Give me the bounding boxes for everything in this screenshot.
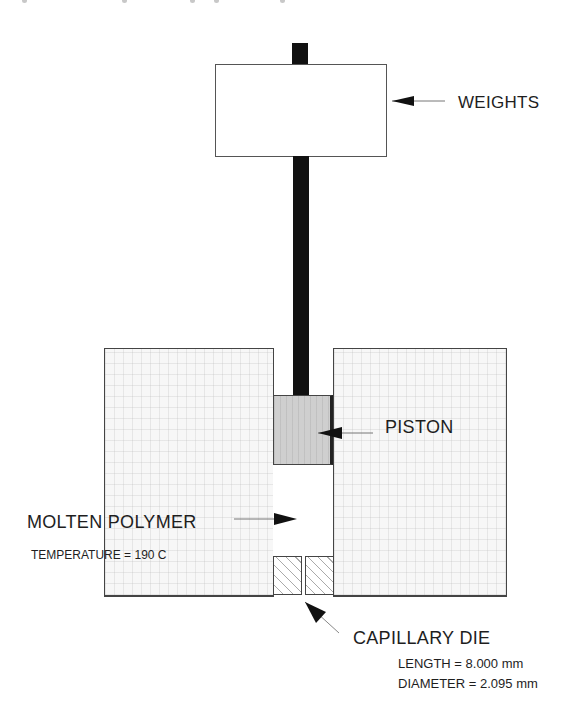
temperature-label: TEMPERATURE = 190 C [31, 548, 166, 562]
weights-arrow-icon [392, 96, 445, 106]
capillary-die-arrow-icon [305, 602, 339, 633]
piston-label: PISTON [385, 417, 453, 438]
molten-polymer-label: MOLTEN POLYMER [27, 512, 197, 533]
capillary-die-label: CAPILLARY DIE [353, 628, 490, 649]
molten-polymer-arrow-icon [234, 513, 297, 525]
weights-label: WEIGHTS [458, 93, 539, 113]
die-diameter-label: DIAMETER = 2.095 mm [398, 676, 538, 691]
die-length-label: LENGTH = 8.000 mm [398, 656, 523, 671]
piston-arrow-icon [318, 427, 373, 439]
